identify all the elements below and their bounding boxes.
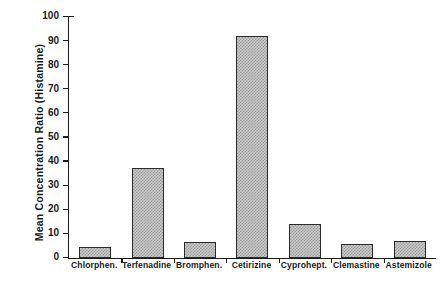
y-axis-tick-label: 30 [48, 180, 59, 190]
bar [184, 242, 216, 258]
bar-slot [121, 17, 173, 258]
y-axis-tick-label: 90 [48, 36, 59, 46]
bar [394, 241, 426, 258]
x-axis-category-label: Bromphen. [173, 260, 225, 270]
y-axis-tick-label: 0 [53, 252, 59, 262]
x-axis-category-label: Cyprohept. [278, 260, 330, 270]
bar-slot [174, 17, 226, 258]
bar [236, 36, 268, 258]
bar-series [69, 17, 436, 258]
y-axis-tick-label: 40 [48, 156, 59, 166]
bar [289, 224, 321, 258]
bar [132, 168, 164, 258]
bar-slot [226, 17, 278, 258]
y-axis-tick-label: 80 [48, 60, 59, 70]
y-axis-tick-label: 50 [48, 132, 59, 142]
y-axis-tick-label: 60 [48, 108, 59, 118]
bar [79, 247, 111, 258]
bar-slot [69, 17, 121, 258]
y-axis-tick-label: 20 [48, 204, 59, 214]
bar-slot [279, 17, 331, 258]
x-axis-category-label: Clemastine [330, 260, 382, 270]
x-axis-category-label: Terfenadine [120, 260, 172, 270]
x-axis-labels: Chlorphen.TerfenadineBromphen.Cetirizine… [68, 260, 435, 270]
x-axis-category-label: Astemizole [383, 260, 435, 270]
bar-chart: Mean Concentration Ratio (Histamine) 010… [0, 0, 443, 285]
x-axis-category-label: Chlorphen. [68, 260, 120, 270]
y-axis-tick-label: 100 [42, 11, 59, 21]
y-axis-tick-label: 70 [48, 84, 59, 94]
x-axis-category-label: Cetirizine [225, 260, 277, 270]
bar-slot [384, 17, 436, 258]
y-axis-tick-label: 10 [48, 228, 59, 238]
bar-slot [331, 17, 383, 258]
bar [341, 244, 373, 258]
plot-area: 0102030405060708090100 [68, 17, 436, 259]
